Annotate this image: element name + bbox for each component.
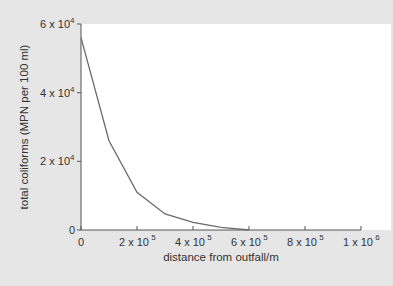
x-tick-label: 4 x 10 xyxy=(175,236,205,248)
y-tick-label: 2 x 10 xyxy=(40,155,70,167)
x-tick-exponent: 5 xyxy=(263,233,268,242)
y-axis-title: total coliforms (MPN per 100 ml) xyxy=(18,44,30,209)
y-axis: 02 x 1044 x 1046 x 104 xyxy=(40,16,81,236)
plot-area xyxy=(81,24,391,230)
x-tick-exponent: 5 xyxy=(151,233,156,242)
x-tick-label: 8 x 10 xyxy=(287,236,317,248)
x-tick-label: 1 x 10 xyxy=(343,236,373,248)
y-tick-exponent: 4 xyxy=(70,85,75,94)
x-tick-exponent: 5 xyxy=(319,233,324,242)
x-tick-exponent: 5 xyxy=(207,233,212,242)
y-tick-label: 6 x 10 xyxy=(40,18,70,30)
x-tick-label: 0 xyxy=(78,236,84,248)
x-axis-title: distance from outfall/m xyxy=(163,251,279,263)
y-tick-exponent: 4 xyxy=(70,153,75,162)
y-tick-exponent: 4 xyxy=(70,16,75,25)
x-tick-label: 6 x 10 xyxy=(231,236,261,248)
y-tick-label: 4 x 10 xyxy=(40,87,70,99)
y-tick-label: 0 xyxy=(69,224,75,236)
chart-panel: 02 x 1044 x 1046 x 104 02 x 1054 x 1056 … xyxy=(0,0,393,286)
x-tick-exponent: 6 xyxy=(375,233,380,242)
line-chart: 02 x 1044 x 1046 x 104 02 x 1054 x 1056 … xyxy=(0,0,393,286)
x-tick-label: 2 x 10 xyxy=(119,236,149,248)
